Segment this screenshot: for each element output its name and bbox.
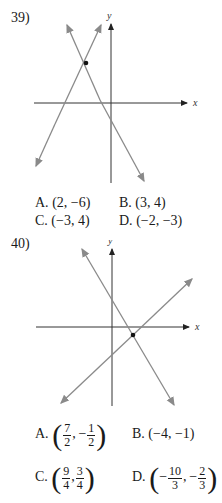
option-40-a[interactable]: A. (72, −12) [35, 420, 106, 450]
option-39-a[interactable]: A. (2, −6) [35, 195, 90, 211]
svg-text:x: x [194, 321, 200, 332]
fraction: 94 [62, 465, 70, 492]
intersection-point [84, 61, 89, 66]
svg-text:y: y [106, 10, 112, 21]
option-40-c[interactable]: C. (94,34) [35, 463, 95, 493]
fraction: 23 [198, 465, 206, 492]
option-39-d[interactable]: D. (−2, −3) [119, 213, 182, 229]
fraction: 72 [63, 422, 71, 449]
problem-40-graph: x y [0, 240, 222, 415]
svg-text:y: y [107, 240, 113, 246]
option-40-b[interactable]: B. (−4, −1) [132, 426, 194, 442]
fraction: 34 [76, 465, 84, 492]
svg-text:x: x [192, 97, 198, 108]
line-falling [82, 249, 128, 327]
fraction: 12 [87, 422, 95, 449]
axes: x y [34, 10, 198, 183]
axes: x y [36, 240, 200, 406]
line-rising [36, 124, 55, 166]
option-40-d[interactable]: D. (−103, −23) [132, 463, 217, 493]
intersection-point [131, 333, 136, 338]
problem-39-graph: x y [0, 0, 222, 190]
option-39-b[interactable]: B. (3, 4) [119, 195, 166, 211]
option-39-c[interactable]: C. (−3, 4) [35, 213, 90, 229]
fraction: 103 [168, 465, 182, 492]
